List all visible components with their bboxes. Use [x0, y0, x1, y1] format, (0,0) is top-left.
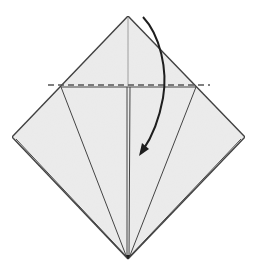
origami-diagram	[0, 0, 257, 271]
paper-diamond	[12, 16, 245, 259]
